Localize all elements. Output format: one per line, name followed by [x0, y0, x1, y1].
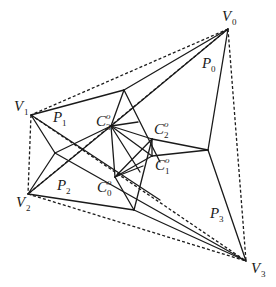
edge-c3-c1: [111, 126, 152, 156]
label-base: P: [201, 55, 211, 71]
edge-v0-c3: [111, 29, 228, 126]
edge-nbottom-c0: [115, 177, 134, 210]
edge-v2-nbottom: [28, 194, 134, 210]
label-subscript: 0: [107, 188, 112, 198]
edge-nright-c1: [152, 150, 208, 156]
label-subscript: 1: [62, 118, 67, 128]
label-subscript: 0: [211, 64, 216, 74]
label-base: P: [209, 205, 219, 221]
center-label-c2: C2o: [154, 119, 169, 140]
vertex-label-v3: V3: [251, 260, 266, 279]
region-label-p0: P0: [201, 55, 216, 74]
label-subscript: 2: [66, 186, 71, 196]
edge-v1-nleft: [31, 115, 55, 153]
edge-v3-nbottom: [134, 210, 246, 261]
label-base: P: [52, 109, 62, 125]
label-subscript: 3: [261, 269, 266, 279]
label-superscript: o: [107, 177, 112, 187]
dashed-edge-v1-v2: [28, 115, 31, 194]
label-subscript: 1: [165, 166, 170, 176]
region-label-p2: P2: [56, 177, 71, 196]
edge-c0-c2: [115, 139, 152, 177]
center-label-c3: C3o: [96, 111, 111, 132]
labels: V0V1V2V3P0P1P2P3C0oC1oC2oC3o: [14, 8, 266, 279]
vertex-label-v0: V0: [222, 8, 237, 27]
edge-v0-ntop: [124, 29, 228, 90]
center-label-c1: C1o: [155, 155, 170, 176]
label-subscript: 2: [26, 203, 31, 213]
edge-c0-inner: [115, 166, 143, 177]
label-subscript: 1: [24, 107, 29, 117]
edge-v2-nleft: [28, 153, 55, 194]
region-label-p3: P3: [209, 205, 224, 224]
label-base: P: [56, 177, 66, 193]
label-superscript: o: [106, 111, 111, 121]
center-label-c0: C0o: [97, 177, 112, 198]
label-subscript: 0: [232, 17, 237, 27]
edge-nright-c2: [152, 139, 208, 150]
label-subscript: 3: [106, 122, 111, 132]
label-superscript: o: [165, 155, 170, 165]
diagram-canvas: V0V1V2V3P0P1P2P3C0oC1oC2oC3o: [0, 0, 276, 287]
dashed-edge-v0-v3: [228, 29, 246, 261]
edge-c1-c0: [115, 156, 152, 177]
edge-v0-nright: [208, 29, 228, 150]
vertex-label-v1: V1: [14, 98, 29, 117]
edge-c3-inner: [111, 126, 140, 172]
vertex-label-v2: V2: [16, 194, 31, 213]
label-superscript: o: [164, 119, 169, 129]
label-subscript: 3: [219, 214, 224, 224]
region-label-p1: P1: [52, 109, 67, 128]
label-subscript: 2: [164, 130, 169, 140]
